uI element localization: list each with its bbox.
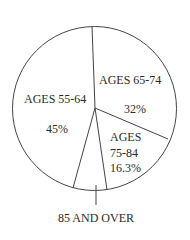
label-ages-75-84-line2: 75-84 xyxy=(110,147,138,159)
pie-chart xyxy=(0,0,190,240)
percent-ages-55-64: 45% xyxy=(46,123,68,135)
label-85-and-over: 85 AND OVER xyxy=(58,212,134,224)
percent-ages-65-74: 32% xyxy=(124,103,146,115)
label-ages-65-74: AGES 65-74 xyxy=(99,74,161,86)
label-ages-75-84-line1: AGES xyxy=(110,131,141,143)
percent-ages-75-84: 16.3% xyxy=(110,162,141,174)
label-ages-55-64: AGES 55-64 xyxy=(24,93,86,105)
